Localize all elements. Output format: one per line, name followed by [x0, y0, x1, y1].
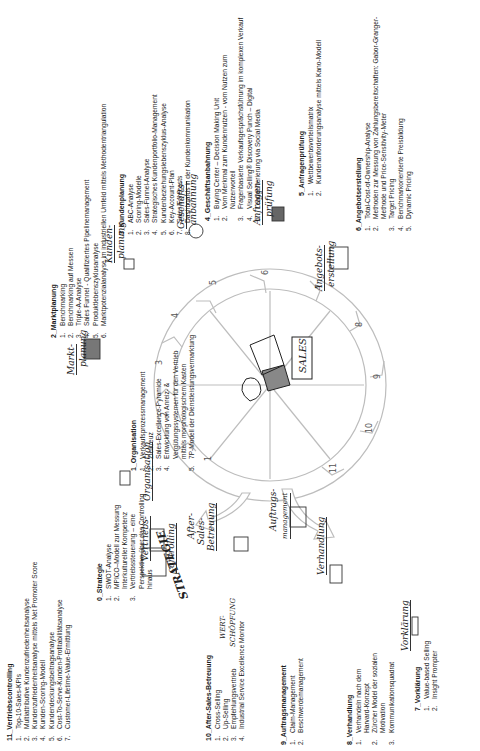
section-title: 0_Strategie: [96, 491, 104, 601]
list-item: 1.SWOT-Analyse: [105, 491, 113, 601]
label-aftersales-3: Betreuung: [206, 503, 217, 551]
list-item: 5.Leadgenerierung via Social Media: [254, 16, 262, 221]
list-item: 4.Benchmarkorientierte Preisbildung: [397, 16, 405, 231]
kundenplanung-icon: [124, 259, 134, 269]
section-title: 7_Vorklärung: [414, 621, 422, 711]
svg-text:8: 8: [355, 322, 364, 327]
label-angebotserstellung-1: Angebots-: [314, 245, 325, 291]
list-item: 5.Kundenbeziehungslebenszyklus-Analyse: [160, 35, 168, 235]
list-item: 5.Dynamic Pricing: [405, 16, 413, 231]
section-3-kundenplanung: 3_Kundenplanung 1.ABC-Analyse 2.Scoring-…: [118, 35, 192, 235]
list-item: 4.Kunden-Scoring-Modell: [39, 561, 47, 741]
svg-text:6: 6: [261, 270, 270, 275]
list-item: 2.Kundenanforderungsanalyse mittels Kano…: [315, 16, 323, 196]
label-aftersales-1: After-: [186, 513, 196, 539]
list-item: 6.Key-Account-Plan: [168, 35, 176, 235]
section-4-geschaeftsanbahnung: 4_Geschäftsanbahnung 1.Buying Center – D…: [204, 16, 262, 221]
label-marktplanung-1: Markt-: [66, 344, 77, 375]
list-item: 2.Vom Merkmal zum Kundennutzen - vom Nut…: [221, 16, 237, 221]
list-item: 5.7P-Modell der Dienstleistungsvermarktu…: [188, 331, 196, 471]
list-item: 3.Sales-Funnel-Analyse: [143, 35, 151, 235]
section-title: 11_Vertriebscontrolling: [6, 561, 14, 741]
sales-process-diagram: 1 2 3 4 5 6 7 8 9 10 11 SALES: [0, 0, 480, 751]
list-item: 1.Benchmarking: [59, 38, 67, 338]
list-item: 2.Insight Prompter: [431, 621, 439, 711]
list-item: 2.Up-Selling: [222, 581, 230, 741]
svg-text:4: 4: [171, 313, 180, 318]
section-1-organisation: 1_Organisation 1.Verkaufsprozessmanageme…: [130, 331, 196, 471]
organisation-icon: [120, 471, 130, 485]
section-title: 10_After-Sales-Betreuung: [205, 581, 213, 741]
section-5-anfragenpruefung: 5_Anfragenprüfung 1.Wettbewerbsvorteilsm…: [298, 16, 323, 196]
list-item: 4.Visual Selling® Discovery Punch – Digi…: [246, 16, 254, 221]
label-verhandlung: Verhandlung: [316, 517, 327, 575]
list-item: 5.Kundendeckungsbeitragsanalyse: [48, 561, 56, 741]
label-angebotserstellung-2: erstellung: [326, 241, 336, 287]
list-item: 2.Scoring-Modelle: [135, 35, 143, 235]
section-title: 2_Marktplanung: [50, 38, 58, 338]
section-6-angebotserstellung: 6_Angebotserstellung 1.Total-Cost-of-Own…: [355, 16, 413, 231]
svg-text:9: 9: [373, 374, 382, 379]
list-item: 1.Verhandeln nach dem Harvard-Konzept: [355, 645, 371, 745]
person-head-icon: [242, 378, 261, 401]
section-7-vorklaerung: 7_Vorklärung 1.Value-based Selling 2.Ins…: [414, 621, 439, 711]
list-item: 2.Benchmarking auf Messen: [67, 38, 75, 338]
list-item: 1.Value-based Selling: [423, 621, 431, 711]
section-2-marktplanung: 2_Marktplanung 1.Benchmarking 2.Benchmar…: [50, 38, 108, 338]
svg-text:10: 10: [365, 423, 374, 433]
label-auftragsmanagement-2: management: [280, 493, 291, 539]
list-item: 4.Strategisches Kundenportfolio-Manageme…: [151, 35, 159, 235]
list-item: 3.Empfehlungsvertrieb: [230, 581, 238, 741]
list-item: 1.Wettbewerbsvorteilsmatrix: [307, 16, 315, 196]
list-item: 4.Entwicklung von Anreiz- & Vergütungssy…: [163, 331, 188, 471]
list-item: 1.Total-Cost-of-Ownership-Analyse: [364, 16, 372, 231]
section-title: 1_Organisation: [130, 331, 138, 471]
list-item: 3.Sales-Excellence-Pyramide: [155, 331, 163, 471]
list-item: 2.Zielkreuz: [147, 331, 155, 471]
list-item: 3.Fragenbasierte Verkaufsgesprächsführun…: [237, 16, 245, 221]
list-item: 3.Kommunikationsquadrat: [388, 645, 396, 745]
section-0-strategie: 0_Strategie 1.SWOT-Analyse 2.MPICO–Model…: [96, 491, 154, 601]
section-title: 5_Anfragenprüfung: [298, 16, 306, 196]
list-item: 2.Zürcher Model der sozialen Motivation: [371, 645, 387, 745]
list-item: 3.Triple-A-Analyse: [75, 38, 83, 338]
list-item: 8.Dashboards in der Kundenkommunikation: [184, 35, 192, 235]
list-item: 1.ABC-Analyse: [127, 35, 135, 235]
label-vertriebscontrolling-2: controlling: [166, 523, 177, 573]
verhandlung-icon: [330, 565, 342, 583]
svg-text:5: 5: [209, 280, 218, 285]
list-item: 1.Top-10-Sales-KPIs: [15, 561, 23, 741]
section-9-auftragsmanagement: 9_Auftragsmanagement 1.Claim-Management …: [280, 635, 305, 745]
list-item: 2.Multiattributive Kundenzufriedenheitsa…: [23, 561, 31, 741]
section-title: 8_Verhandlung: [346, 645, 354, 745]
list-item: 7.Customer-Lifetime-Value-Ermittlung: [64, 561, 72, 741]
list-item: 4.Sales Funnel - Qualifiziertes Pipeline…: [83, 38, 91, 338]
section-11-vertriebscontrolling: 11_Vertriebscontrolling 1.Top-10-Sales-K…: [6, 561, 72, 741]
aftersales-icon: [234, 537, 248, 551]
list-item: 4.Industrial Service Excellence Monitor: [238, 581, 246, 741]
label-auftragsmanagement-1: Auftrags-: [268, 489, 278, 531]
section-title: 3_Kundenplanung: [118, 35, 126, 235]
list-item: 2.Beschwerdemanagement: [297, 635, 305, 745]
section-10-aftersales: 10_After-Sales-Betreuung 1.Cross-Selling…: [205, 581, 247, 741]
svg-text:11: 11: [329, 463, 338, 473]
list-item: 7.Sales Forecasts: [176, 35, 184, 235]
list-item: 5.Produktlebenszyklusanalyse: [92, 38, 100, 338]
label-vorklaerung: Vorklärung: [400, 600, 411, 651]
sales-sign-icon: SALES: [292, 337, 312, 379]
list-item: 1.Cross-Selling: [214, 581, 222, 741]
list-item: 6.Cost-To-Serve-Kunden-Profitabilitätsan…: [56, 561, 64, 741]
list-item: 1.Claim-Management: [289, 635, 297, 745]
svg-text:SALES: SALES: [297, 338, 308, 373]
list-item: 3.Target Pricing: [388, 16, 396, 231]
list-item: 2.MPICO–Modell zur Messung Interkulturel…: [113, 491, 129, 601]
list-item: 1.Verkaufsprozessmanagement: [139, 331, 147, 471]
section-title: 6_Angebotserstellung: [355, 16, 363, 231]
label-anfragenpruefung-2: prüfung: [264, 180, 274, 217]
section-title: 4_Geschäftsanbahnung: [204, 16, 212, 221]
section-title: 9_Auftragsmanagement: [280, 635, 288, 745]
list-item: 2.Methoden zur Messung von Zahlungsberei…: [372, 16, 388, 231]
section-8-verhandlung: 8_Verhandlung 1.Verhandeln nach dem Harv…: [346, 645, 396, 745]
list-item: 3.Vertriebssteuerung – eine Perspektive …: [129, 491, 154, 601]
list-item: 6.Marktpotenzialanalyse im industriellen…: [100, 38, 108, 338]
